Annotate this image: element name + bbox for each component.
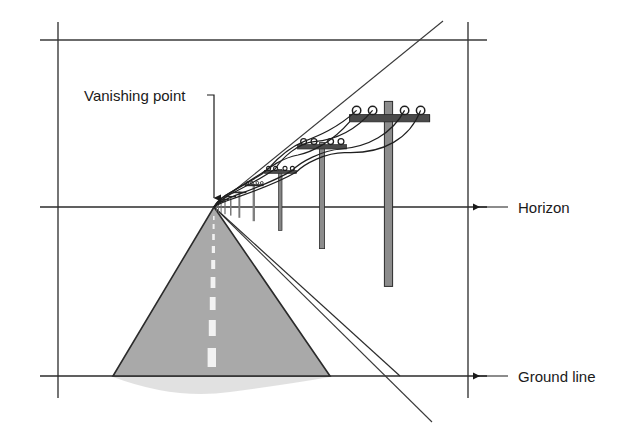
vanishing-point-label: Vanishing point (84, 87, 186, 104)
pole-mid-2 (298, 139, 347, 249)
horizon-callout: Horizon (473, 199, 570, 216)
road-ground-shadow (113, 377, 330, 394)
center-dash (211, 260, 215, 269)
perspective-diagram: Vanishing point Horizon Ground line (0, 0, 641, 437)
pole-mid-3 (265, 166, 297, 230)
center-dash (209, 320, 216, 336)
upper-convergence-line (214, 21, 443, 207)
center-dash (213, 216, 215, 220)
center-dash (213, 224, 215, 229)
road-surface (113, 207, 330, 376)
horizon-label: Horizon (518, 199, 570, 216)
vanishing-point-callout: Vanishing point (84, 87, 214, 198)
pole-far-4 (245, 182, 264, 222)
center-dash (210, 297, 216, 310)
center-dash (211, 277, 216, 288)
diagram-canvas: Vanishing point Horizon Ground line (0, 0, 641, 437)
center-dash (208, 348, 216, 367)
road (113, 207, 330, 394)
center-dash (212, 246, 215, 253)
wire-third (214, 110, 405, 207)
ground-line-label: Ground line (518, 368, 596, 385)
vanishing-point-leader (207, 95, 214, 198)
ground-line-callout: Ground line (473, 368, 596, 385)
center-dash (212, 234, 215, 240)
